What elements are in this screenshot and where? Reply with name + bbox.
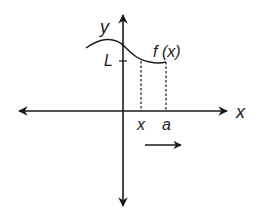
x-point-label: x [136, 116, 146, 133]
limit-diagram: y x f (x) L x a [0, 0, 261, 219]
y-axis-label: y [98, 17, 110, 37]
x-axis-label: x [235, 102, 246, 122]
limit-label: L [104, 52, 113, 69]
a-point-label: a [162, 116, 171, 133]
function-label: f (x) [153, 43, 181, 60]
